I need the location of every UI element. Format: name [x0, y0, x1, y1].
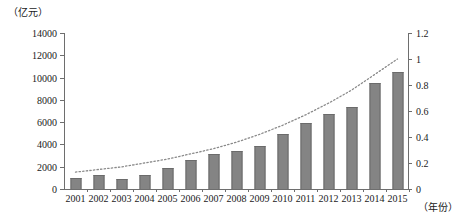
y-axis-tick-label-left: 0	[52, 184, 57, 195]
y-axis-tick-label-left: 4000	[37, 139, 57, 150]
x-axis-tick-label: 2003	[112, 193, 132, 204]
y-axis-tick-label-left: 6000	[37, 117, 57, 128]
y-axis-tick-label-left: 10000	[32, 72, 57, 83]
y-axis-tick-label-left: 8000	[37, 94, 57, 105]
x-axis-tick-label: 2012	[319, 193, 339, 204]
x-axis-tick-label: 2007	[204, 193, 224, 204]
chart-container: （亿元） （年份） 020004000600080001000012000140…	[0, 0, 473, 220]
y-axis-tick-label-left: 12000	[32, 50, 57, 61]
x-axis-tick-label: 2011	[296, 193, 316, 204]
y-axis-tick-label-right: 0.4	[416, 132, 429, 143]
x-axis-tick-label: 2002	[89, 193, 109, 204]
x-axis-labels: 2001200220032004200520062007200820092010…	[64, 193, 409, 209]
x-axis-tick-label: 2013	[342, 193, 362, 204]
x-axis-tick-label: 2006	[181, 193, 201, 204]
trend-polyline	[76, 59, 398, 172]
y-axis-unit-label: （亿元）	[8, 4, 48, 19]
y-axis-tick-label-left: 14000	[32, 28, 57, 39]
plot-area: 02000400060008000100001200014000 00.20.4…	[64, 33, 409, 190]
trend-line	[64, 33, 409, 190]
y-axis-tick-label-right: 0	[416, 184, 421, 195]
y-axis-tick-label-right: 1.2	[416, 28, 429, 39]
x-axis-unit-label: （年份）	[418, 199, 458, 214]
x-axis-tick-label: 2010	[273, 193, 293, 204]
y-axis-tick-label-right: 0.8	[416, 80, 429, 91]
x-axis-tick-label: 2004	[135, 193, 155, 204]
x-axis-tick-label: 2001	[66, 193, 86, 204]
x-axis-tick-label: 2015	[388, 193, 408, 204]
y-axis-tick-label-left: 2000	[37, 161, 57, 172]
x-axis-tick-label: 2009	[250, 193, 270, 204]
y-axis-tick-label-right: 1	[416, 54, 421, 65]
x-axis-tick-label: 2005	[158, 193, 178, 204]
x-axis-tick	[409, 189, 410, 192]
x-axis-tick-label: 2008	[227, 193, 247, 204]
x-axis-tick-label: 2014	[365, 193, 385, 204]
y-axis-tick-label-right: 0.6	[416, 106, 429, 117]
y-axis-tick-label-right: 0.2	[416, 158, 429, 169]
